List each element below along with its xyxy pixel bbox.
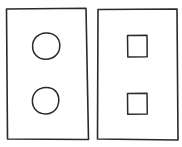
sketch-canvas: [0, 0, 182, 147]
circle-icon: [33, 33, 60, 59]
right-panel-frame: [98, 9, 179, 140]
left-panel: [7, 8, 89, 139]
circle-icon: [32, 87, 58, 113]
square-icon: [128, 35, 148, 57]
left-panel-frame: [7, 8, 89, 139]
sketch-drawing: [0, 0, 182, 147]
square-icon: [128, 93, 148, 114]
right-panel: [98, 9, 179, 140]
